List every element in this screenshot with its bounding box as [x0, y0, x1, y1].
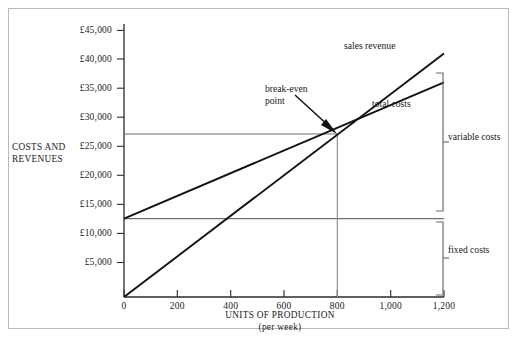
x-axis-title-line-2: (per week)	[160, 322, 400, 334]
fixed-costs-bracket	[436, 222, 449, 295]
x-axis-ticks	[124, 290, 444, 297]
y-axis-title: COSTS AND REVENUES	[12, 141, 108, 165]
break-even-label-line-1: break-even	[265, 83, 343, 95]
x-axis-title-line-1: UNITS OF PRODUCTION	[160, 310, 400, 322]
y-tick-label: £40,000	[62, 54, 112, 64]
y-axis-title-line-1: COSTS AND	[12, 141, 108, 153]
x-tick-label: 1,200	[424, 301, 464, 311]
y-axis-ticks	[117, 30, 124, 262]
sales-revenue-label: sales revenue	[344, 40, 395, 51]
break-even-point-label: break-even point	[265, 83, 343, 106]
y-tick-label: £45,000	[62, 25, 112, 35]
break-even-chart-page: £45,000 £40,000 £35,000 £30,000 £25,000 …	[0, 0, 520, 346]
fixed-costs-label: fixed costs	[448, 244, 489, 256]
y-axis-title-line-2: REVENUES	[12, 153, 108, 165]
break-even-label-line-2: point	[265, 95, 343, 107]
total-costs-label: total costs	[372, 98, 411, 109]
y-tick-label: £10,000	[62, 228, 112, 238]
y-tick-label: £30,000	[62, 112, 112, 122]
variable-costs-label: variable costs	[448, 131, 508, 143]
x-axis-title: UNITS OF PRODUCTION (per week)	[160, 310, 400, 333]
y-tick-label: £15,000	[62, 199, 112, 209]
x-tick-label: 0	[104, 301, 144, 311]
y-tick-label: £35,000	[62, 83, 112, 93]
y-tick-label: £5,000	[62, 257, 112, 267]
y-tick-label: £20,000	[62, 170, 112, 180]
